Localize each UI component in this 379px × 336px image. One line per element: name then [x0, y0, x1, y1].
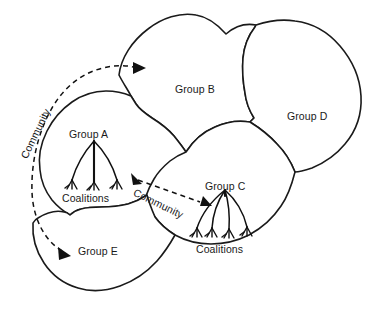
diagram-svg [0, 0, 379, 336]
group-a-coalitions-label: Coalitions [62, 192, 109, 204]
group-d-label: Group D [287, 110, 327, 122]
group-a-label: Group A [69, 128, 108, 140]
group-e-label: Group E [78, 245, 118, 257]
group-b-label: Group B [175, 83, 215, 95]
diagram-canvas: Group B Group D Group A Coalitions Group… [0, 0, 379, 336]
group-c-label: Group C [205, 180, 245, 192]
group-c-coalitions-label: Coalitions [196, 243, 243, 255]
